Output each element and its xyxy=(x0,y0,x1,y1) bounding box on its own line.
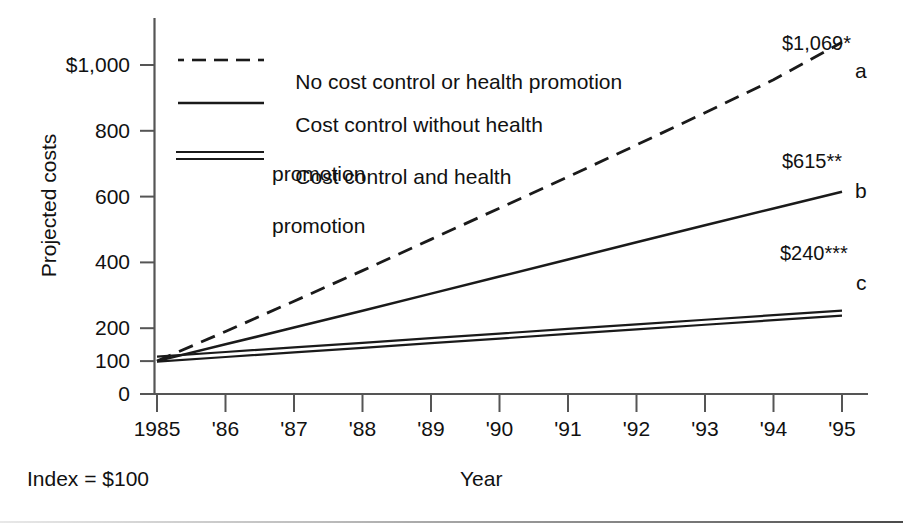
y-tick-label: $1,000 xyxy=(20,54,130,75)
endpoint-value-c: $240*** xyxy=(780,243,848,263)
x-tick-label: '89 xyxy=(396,418,466,439)
x-axis-ticks xyxy=(157,394,842,412)
x-tick-label: '91 xyxy=(533,418,603,439)
y-axis-ticks xyxy=(140,65,155,394)
x-tick-label: '87 xyxy=(259,418,329,439)
index-note: Index = $100 xyxy=(27,468,149,489)
series-line-c-upper xyxy=(157,311,842,357)
legend-label-line1: No cost control or health promotion xyxy=(295,70,622,93)
x-tick-label: '90 xyxy=(465,418,535,439)
x-tick-label: '94 xyxy=(739,418,809,439)
x-tick-label: '86 xyxy=(191,418,261,439)
x-tick-label: '93 xyxy=(670,418,740,439)
x-tick-label: 1985 xyxy=(122,418,192,439)
y-axis-title: Projected costs xyxy=(38,116,59,296)
x-tick-label: '95 xyxy=(807,418,877,439)
legend-markers xyxy=(176,60,264,159)
endpoint-letter-a: a xyxy=(855,60,867,81)
endpoint-letter-b: b xyxy=(855,180,867,201)
y-tick-label: 100 xyxy=(20,350,130,371)
y-tick-label: 0 xyxy=(20,383,130,404)
y-tick-label: 200 xyxy=(20,317,130,338)
x-tick-label: '88 xyxy=(328,418,398,439)
legend-item-cost-control-and-promotion: Cost control and health promotion xyxy=(272,145,511,278)
x-axis-title: Year xyxy=(460,468,502,489)
x-tick-label: '92 xyxy=(602,418,672,439)
endpoint-value-b: $615** xyxy=(782,151,842,171)
legend-label-line2: promotion xyxy=(272,215,511,236)
endpoint-value-a: $1,069* xyxy=(782,33,851,53)
series-line-c-lower xyxy=(157,316,842,362)
legend-label-line1: Cost control without health xyxy=(295,113,542,136)
endpoint-letter-c: c xyxy=(856,272,867,293)
chart-figure: $1,0008006004002001000 1985'86'87'88'89'… xyxy=(0,0,903,532)
bottom-divider xyxy=(0,521,903,523)
legend-label-line1: Cost control and health xyxy=(295,165,511,188)
